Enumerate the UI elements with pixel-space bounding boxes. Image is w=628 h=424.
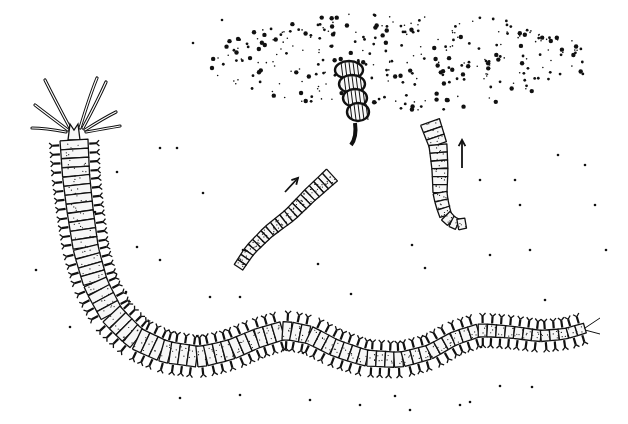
worm-fragment-straight [234, 169, 337, 270]
coiled-worm-fragment [335, 61, 369, 145]
illustration-canvas [0, 0, 628, 424]
worm-illustration [0, 0, 628, 424]
worm-fragment-curved [421, 119, 467, 230]
main-worm [32, 78, 600, 378]
